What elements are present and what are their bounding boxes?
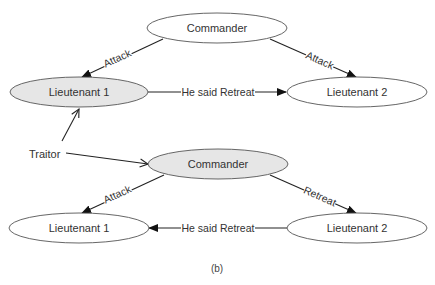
node-top-commander: Commander [147,13,287,43]
node-label: Lieutenant 1 [49,222,110,234]
node-label: Commander [187,22,248,34]
edge-top-lt1-to-lt2: He said Retreat [148,85,286,99]
scenario-top: Attack Attack He said Retreat Commander … [10,13,427,107]
edge-label-he-said-retreat: He said Retreat [182,86,255,98]
edge-bottom-lt2-to-lt1: He said Retreat [149,221,287,235]
node-label: Lieutenant 2 [327,86,388,98]
node-bottom-commander-traitor: Commander [148,149,288,179]
traitor-arrow-to-top-lt1 [62,109,79,141]
node-top-lieutenant2: Lieutenant 2 [287,77,427,107]
edge-top-commander-to-lt1: Attack [82,39,163,77]
edge-label-retreat: Retreat [302,184,338,209]
node-bottom-lieutenant1: Lieutenant 1 [9,213,149,243]
node-bottom-lieutenant2: Lieutenant 2 [287,213,427,243]
node-top-lieutenant1-traitor: Lieutenant 1 [10,77,148,107]
node-label: Lieutenant 1 [49,86,110,98]
byzantine-generals-diagram: Attack Attack He said Retreat Commander … [0,0,435,285]
edge-bottom-commander-to-lt2: Retreat [270,175,356,213]
scenario-bottom: Attack Retreat He said Retreat Commander… [9,149,427,243]
traitor-arrow-to-bottom-commander [66,153,148,164]
node-label: Commander [188,158,249,170]
traitor-label: Traitor [29,148,61,160]
edge-label-attack: Attack [101,46,133,70]
traitor-annotation: Traitor [29,109,148,164]
edge-label-he-said-retreat: He said Retreat [182,222,255,234]
figure-caption: (b) [211,263,223,274]
edge-label-attack: Attack [101,182,133,206]
node-label: Lieutenant 2 [327,222,388,234]
edge-bottom-commander-to-lt1: Attack [82,175,164,213]
edge-top-commander-to-lt2: Attack [270,39,356,77]
edge-label-attack: Attack [304,49,336,72]
